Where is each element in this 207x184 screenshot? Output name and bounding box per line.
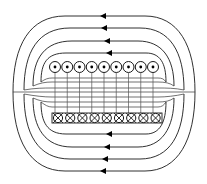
- bottom-conductors: [52, 113, 162, 123]
- conductor-in-icon: [151, 113, 161, 123]
- arrow-left-icon: [106, 131, 112, 137]
- conductor-in-icon: [77, 113, 87, 123]
- arrow-left-icon: [104, 144, 110, 150]
- direction-arrows: [100, 13, 112, 174]
- conductor-out-icon: [62, 62, 73, 73]
- conductor-in-icon: [138, 113, 148, 123]
- arrow-left-icon: [104, 38, 110, 44]
- arrow-left-icon: [102, 156, 108, 162]
- conductor-in-icon: [102, 113, 112, 123]
- arrow-left-icon: [100, 168, 106, 174]
- conductor-out-icon: [111, 62, 122, 73]
- arrow-left-icon: [101, 25, 107, 31]
- conductor-out-icon: [99, 62, 110, 73]
- arrow-left-icon: [106, 50, 112, 56]
- conductor-in-icon: [90, 113, 100, 123]
- conductor-in-icon: [126, 113, 136, 123]
- conductor-in-icon: [65, 113, 75, 123]
- conductor-out-icon: [50, 62, 61, 73]
- conductor-out-icon: [74, 62, 85, 73]
- conductor-in-icon: [53, 113, 63, 123]
- conductor-out-icon: [148, 62, 159, 73]
- arrow-left-icon: [100, 13, 106, 19]
- conductor-out-icon: [86, 62, 97, 73]
- conductor-out-icon: [123, 62, 134, 73]
- conductor-in-icon: [114, 113, 124, 123]
- conductor-out-icon: [135, 62, 146, 73]
- top-conductors: [50, 62, 159, 73]
- solenoid-field-diagram: [0, 0, 207, 184]
